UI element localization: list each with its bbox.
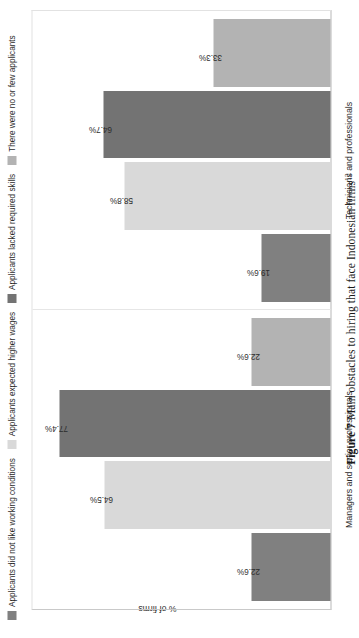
bar-value-label: 22.6% — [236, 352, 259, 361]
bar[interactable] — [251, 318, 330, 386]
legend-swatch-icon-1 — [7, 440, 16, 449]
bar-slot: 33.3% — [32, 19, 330, 87]
bar-slot: 22.6% — [32, 533, 330, 601]
legend-item-0: Applicants did not like working conditio… — [7, 458, 16, 620]
bar-group-0: 22.6%64.5%77.4%22.6%Managers and senior … — [32, 310, 330, 609]
legend-label-0: Applicants did not like working conditio… — [7, 458, 16, 607]
legend-label-3: There were no or few applicants — [7, 35, 16, 152]
bar[interactable] — [104, 462, 330, 530]
bar-value-label: 64.7% — [89, 125, 112, 134]
chart-legend: Applicants did not like working conditio… — [7, 12, 29, 620]
legend-label-2: Applicants lacked required skills — [7, 174, 16, 290]
bar[interactable] — [261, 234, 330, 302]
figure-canvas: Applicants did not like working conditio… — [0, 0, 359, 638]
group-divider — [32, 309, 330, 310]
bar[interactable] — [124, 163, 330, 231]
figure-caption-footnote: 12 — [343, 173, 352, 181]
bar-slot: 64.5% — [32, 462, 330, 530]
bar-value-label: 58.8% — [109, 196, 132, 205]
legend-swatch-icon-0 — [7, 611, 16, 620]
bar[interactable] — [59, 390, 330, 458]
bar-value-label: 33.3% — [199, 53, 222, 62]
bar-group-1: 19.6%58.8%64.7%33.3%Technicians and prof… — [32, 11, 330, 310]
bar-slot: 58.8% — [32, 163, 330, 231]
legend-item-2: Applicants lacked required skills — [7, 174, 16, 303]
bar[interactable] — [213, 19, 330, 87]
legend-item-1: Applicants expected higher wages — [7, 312, 16, 449]
bar-slot: 19.6% — [32, 234, 330, 302]
bar-slot: 77.4% — [32, 390, 330, 458]
bar-value-label: 19.6% — [247, 268, 270, 277]
bar-slot: 64.7% — [32, 91, 330, 159]
figure-caption: Figure 7 Main obstacles to hiring that f… — [343, 0, 357, 638]
figure-caption-lead: Figure 7 — [345, 423, 357, 465]
bar[interactable] — [251, 533, 330, 601]
bar-value-label: 22.6% — [236, 567, 259, 576]
figure-caption-text: Main obstacles to hiring that face Indon… — [345, 181, 357, 420]
legend-item-3: There were no or few applicants — [7, 35, 16, 165]
plot-area: 22.6%64.5%77.4%22.6%Managers and senior … — [31, 10, 331, 610]
bar[interactable] — [103, 91, 330, 159]
legend-swatch-icon-3 — [7, 156, 16, 165]
bar-slot: 22.6% — [32, 318, 330, 386]
bar-value-label: 64.5% — [89, 495, 112, 504]
bar-groups: 22.6%64.5%77.4%22.6%Managers and senior … — [32, 11, 330, 609]
bar-value-label: 77.4% — [44, 424, 67, 433]
legend-label-1: Applicants expected higher wages — [7, 312, 16, 436]
legend-swatch-icon-2 — [7, 294, 16, 303]
